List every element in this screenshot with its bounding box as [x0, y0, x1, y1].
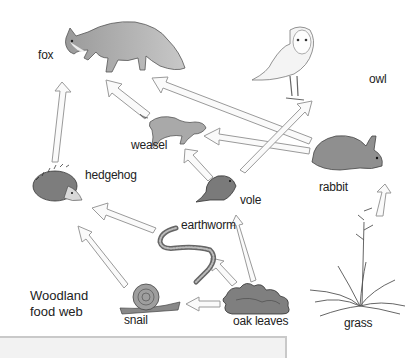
arrow-grass-to-rabbit [376, 184, 391, 216]
vole-illustration [196, 176, 236, 202]
oak-leaves-illustration [223, 283, 289, 314]
bottom-panel-edge [0, 336, 287, 358]
label-grass: grass [344, 316, 372, 330]
rabbit-illustration [312, 136, 382, 170]
arrow-hedgehog-to-fox [52, 82, 71, 162]
diagram-title: Woodland food web [30, 288, 88, 320]
owl-illustration [252, 27, 314, 100]
label-rabbit: rabbit [319, 180, 348, 194]
label-weasel: weasel [131, 138, 167, 152]
title-line-2: food web [30, 304, 88, 320]
hedgehog-illustration [33, 164, 82, 201]
title-line-1: Woodland [30, 288, 88, 304]
arrow-oak-to-snail [186, 297, 220, 311]
label-oak-leaves: oak leaves [233, 314, 288, 328]
label-hedgehog: hedgehog [85, 168, 137, 182]
snail-illustration [120, 284, 180, 314]
fox-illustration [66, 22, 186, 72]
arrow-earthworm-to-hedgehog [92, 203, 156, 233]
label-vole: vole [240, 193, 261, 207]
arrow-vole-to-weasel [184, 149, 213, 181]
label-earthworm: earthworm [181, 218, 236, 232]
label-snail: snail [124, 313, 148, 327]
earthworm-illustration [160, 228, 214, 282]
arrow-snail-to-hedgehog [78, 226, 128, 288]
label-fox: fox [38, 48, 53, 62]
grass-illustration [310, 208, 405, 316]
label-owl: owl [369, 72, 386, 86]
arrow-weasel-to-fox [106, 80, 150, 119]
